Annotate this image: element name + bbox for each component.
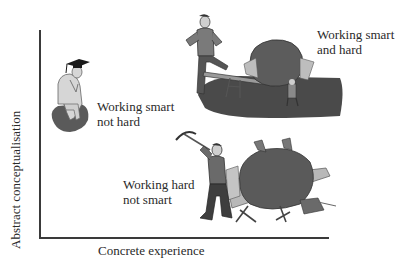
y-axis-label: Abstract conceptualisation xyxy=(8,111,24,249)
label-line-1: Working smart xyxy=(97,99,174,114)
man-with-pickaxe-crushed-by-boulder-icon xyxy=(176,132,336,222)
x-axis-label: Concrete experience xyxy=(98,243,204,259)
label-smart-not-hard: Working smart not hard xyxy=(97,99,174,129)
label-line-1: Working hard xyxy=(123,177,195,192)
label-line-1: Working smart xyxy=(317,27,394,42)
label-line-2: and hard xyxy=(317,42,394,57)
thinker-with-graduation-cap-icon xyxy=(52,59,90,132)
label-line-2: not hard xyxy=(97,114,174,129)
y-axis-line xyxy=(39,30,41,239)
label-hard-not-smart: Working hard not smart xyxy=(123,177,195,207)
label-smart-and-hard: Working smart and hard xyxy=(317,27,394,57)
label-line-2: not smart xyxy=(123,192,195,207)
x-axis-line xyxy=(39,237,329,239)
